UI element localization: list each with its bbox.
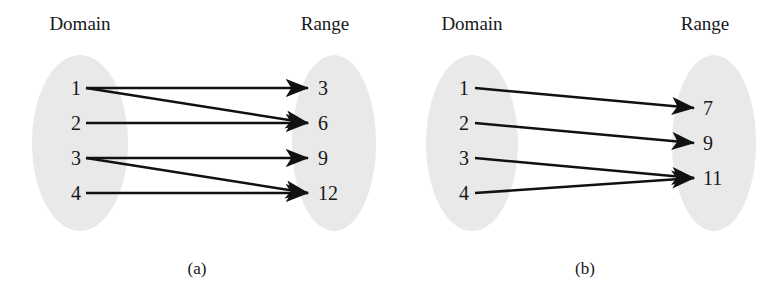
- panel-b-range-heading: Range: [681, 13, 730, 34]
- panel-a: Domain Range 1 2 3 4 3 6 9 12 (a): [32, 13, 376, 278]
- panel-b-domain-node-1: 1: [459, 77, 469, 99]
- panel-a-range-node-12: 12: [318, 182, 338, 204]
- panel-a-range-node-9: 9: [318, 147, 328, 169]
- panel-a-range-node-6: 6: [318, 112, 328, 134]
- panel-b: Domain Range 1 2 3 4 7 9 11 (b): [426, 13, 756, 278]
- panel-b-domain-heading: Domain: [441, 13, 503, 34]
- panel-b-caption: (b): [575, 259, 595, 278]
- panel-b-domain-ellipse: [426, 55, 518, 231]
- panel-a-range-heading: Range: [301, 13, 350, 34]
- figure-root: Domain Range 1 2 3 4 3 6 9 12 (a) Domain…: [0, 0, 781, 298]
- panel-a-domain-node-1: 1: [71, 77, 81, 99]
- panel-a-domain-node-3: 3: [71, 147, 81, 169]
- panel-b-domain-node-2: 2: [459, 112, 469, 134]
- panel-a-range-ellipse: [292, 55, 376, 231]
- panel-b-range-node-9: 9: [703, 132, 713, 154]
- panel-b-range-node-7: 7: [703, 97, 713, 119]
- panel-a-domain-heading: Domain: [49, 13, 111, 34]
- panel-a-domain-node-4: 4: [71, 182, 81, 204]
- panel-b-domain-node-4: 4: [459, 182, 469, 204]
- panel-a-caption: (a): [188, 259, 207, 278]
- panel-b-domain-node-3: 3: [459, 147, 469, 169]
- panel-a-range-node-3: 3: [318, 77, 328, 99]
- panel-a-domain-node-2: 2: [71, 112, 81, 134]
- panel-b-range-node-11: 11: [703, 167, 722, 189]
- mapping-diagram-canvas: Domain Range 1 2 3 4 3 6 9 12 (a) Domain…: [0, 0, 781, 298]
